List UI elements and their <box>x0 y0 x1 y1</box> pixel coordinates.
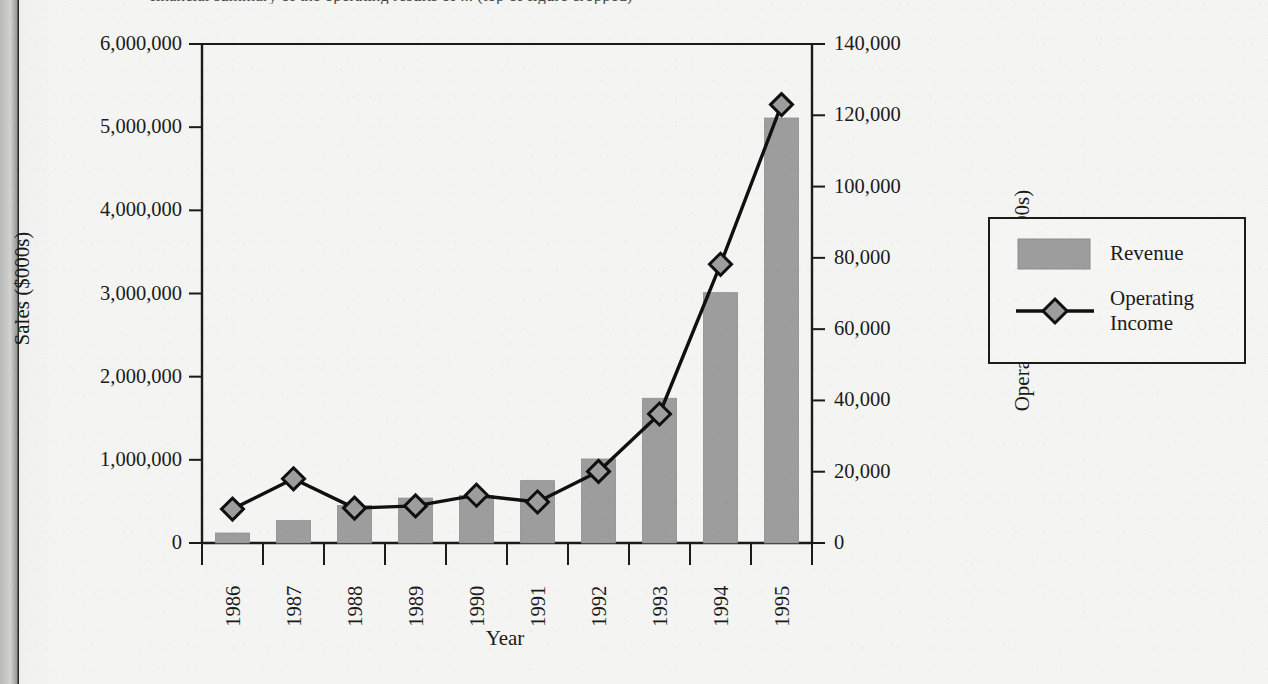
y-tick-label-right-1: 20,000 <box>834 461 994 482</box>
x-tick-label-1987: 1987 <box>283 574 304 638</box>
y-tick-label-left-6: 6,000,000 <box>0 33 182 54</box>
y-tick-label-left-4: 4,000,000 <box>0 199 182 220</box>
y-tick-label-right-5: 100,000 <box>834 176 994 197</box>
y-tick-label-left-5: 5,000,000 <box>0 116 182 137</box>
x-axis-title: Year <box>0 628 1010 649</box>
y-tick-label-right-4: 80,000 <box>834 247 994 268</box>
marker-1986 <box>222 498 244 520</box>
y-tick-label-left-0: 0 <box>0 532 182 553</box>
x-tick-label-1989: 1989 <box>405 574 426 638</box>
bar-1995 <box>764 118 798 543</box>
x-tick-label-1992: 1992 <box>588 574 609 638</box>
y-tick-label-right-6: 120,000 <box>834 104 994 125</box>
chart-legend: Revenue Operating Income <box>988 217 1246 364</box>
y-tick-label-left-2: 2,000,000 <box>0 366 182 387</box>
x-tick-label-1986: 1986 <box>222 574 243 638</box>
bar-1987 <box>276 521 310 543</box>
y-tick-label-right-7: 140,000 <box>834 33 994 54</box>
y-tick-label-right-3: 60,000 <box>834 318 994 339</box>
bar-1994 <box>703 293 737 543</box>
bar-1986 <box>215 533 249 543</box>
marker-1995 <box>771 94 793 116</box>
x-tick-label-1991: 1991 <box>527 574 548 638</box>
legend-diamond-marker <box>1043 299 1067 323</box>
legend-label-operating-income: Operating Income <box>1110 286 1194 336</box>
y-tick-label-right-0: 0 <box>834 532 994 553</box>
x-axis-ticks <box>202 543 812 565</box>
x-tick-label-1993: 1993 <box>649 574 670 638</box>
x-tick-label-1988: 1988 <box>344 574 365 638</box>
x-tick-label-1995: 1995 <box>771 574 792 638</box>
x-tick-label-1990: 1990 <box>466 574 487 638</box>
legend-label-revenue: Revenue <box>1110 241 1183 266</box>
x-tick-label-1994: 1994 <box>710 574 731 638</box>
marker-1987 <box>283 468 305 490</box>
y-axis-left-ticks <box>189 44 202 543</box>
operating-income-polyline <box>233 105 782 510</box>
y-tick-label-right-2: 40,000 <box>834 389 994 410</box>
y-tick-label-left-3: 3,000,000 <box>0 283 182 304</box>
y-axis-right-ticks <box>812 44 825 543</box>
marker-1994 <box>710 253 732 275</box>
legend-swatch-revenue <box>1018 239 1090 269</box>
y-tick-label-left-1: 1,000,000 <box>0 449 182 470</box>
